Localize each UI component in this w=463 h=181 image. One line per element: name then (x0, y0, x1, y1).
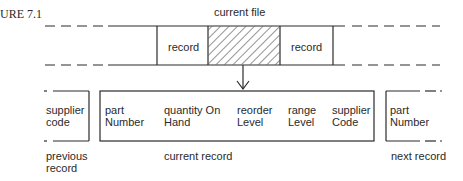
current-record-hatched-cell (209, 27, 280, 65)
field-supplier-code: supplier Code (332, 104, 371, 128)
field-reorder-level: reorder Level (237, 104, 272, 128)
record-structure-diagram: URE 7.1 current file record record suppl… (0, 0, 463, 181)
current-record-caption: current record (164, 150, 232, 162)
previous-record-caption: previous record (46, 150, 88, 174)
next-field-part-number: part Number (390, 104, 429, 128)
figure-label: URE 7.1 (0, 8, 42, 20)
down-arrow-icon (237, 65, 249, 89)
prev-field-supplier-code: supplier code (46, 104, 85, 128)
field-part-number: part Number (105, 104, 144, 128)
file-record-cell-3: record (291, 41, 322, 53)
file-title: current file (214, 6, 265, 18)
field-quantity-on-hand: quantity On Hand (164, 104, 220, 128)
file-record-cell-1: record (168, 41, 199, 53)
field-range-level: range Level (288, 104, 316, 128)
next-record-caption: next record (391, 150, 446, 162)
